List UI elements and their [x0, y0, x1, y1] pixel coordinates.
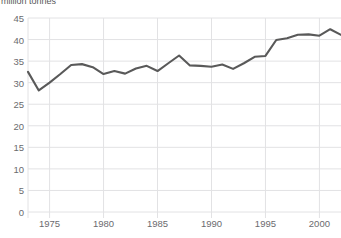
- chart-plot-area: [0, 0, 341, 238]
- x-tick-label: 1995: [255, 218, 276, 229]
- horizontal-gridlines: [28, 18, 341, 212]
- x-tick-label: 1990: [201, 218, 222, 229]
- x-tick-label: 2000: [309, 218, 330, 229]
- y-tick-label: 0: [2, 207, 24, 218]
- y-tick-label: 20: [2, 120, 24, 131]
- x-tick-label: 1985: [147, 218, 168, 229]
- y-tick-label: 40: [2, 34, 24, 45]
- y-tick-label: 35: [2, 56, 24, 67]
- vertical-gridlines: [28, 18, 319, 218]
- y-tick-label: 45: [2, 13, 24, 24]
- y-tick-label: 15: [2, 142, 24, 153]
- y-tick-label: 10: [2, 163, 24, 174]
- y-tick-label: 25: [2, 99, 24, 110]
- x-tick-label: 1980: [93, 218, 114, 229]
- y-tick-label: 5: [2, 185, 24, 196]
- y-tick-label: 30: [2, 77, 24, 88]
- line-chart: million tonnes 051015202530354045 197519…: [0, 0, 341, 238]
- x-tick-label: 1975: [39, 218, 60, 229]
- y-axis-tick-labels: 051015202530354045: [0, 0, 24, 238]
- data-series-line: [28, 29, 341, 90]
- x-axis-tick-labels: 197519801985199019952000: [0, 218, 341, 236]
